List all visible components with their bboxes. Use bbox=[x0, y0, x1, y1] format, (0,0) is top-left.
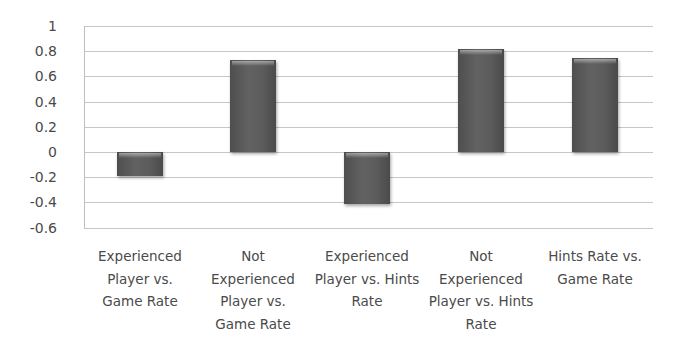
y-tick-label: -0.2 bbox=[0, 169, 57, 185]
x-category-label-line: Player vs. Hints bbox=[425, 290, 537, 313]
x-category-label-line: Game Rate bbox=[197, 313, 309, 336]
x-category-label: NotExperiencedPlayer vs.Game Rate bbox=[197, 245, 309, 335]
gridline bbox=[84, 102, 653, 103]
x-category-label-line: Rate bbox=[425, 313, 537, 336]
bar bbox=[230, 60, 276, 152]
gridline bbox=[84, 51, 653, 52]
x-category-label-line: Player vs. bbox=[84, 268, 196, 291]
x-category-label: Hints Rate vs.Game Rate bbox=[539, 245, 651, 290]
y-tick-label: 0.2 bbox=[0, 119, 57, 135]
gridline bbox=[84, 76, 653, 77]
x-category-label: NotExperiencedPlayer vs. HintsRate bbox=[425, 245, 537, 335]
bar bbox=[458, 49, 504, 152]
x-category-label: ExperiencedPlayer vs.Game Rate bbox=[84, 245, 196, 313]
x-category-label-line: Experienced bbox=[311, 245, 423, 268]
y-axis-line bbox=[84, 26, 85, 228]
x-category-label-line: Not bbox=[425, 245, 537, 268]
gridline bbox=[84, 127, 653, 128]
bar bbox=[117, 152, 163, 176]
y-tick-label: 0.4 bbox=[0, 94, 57, 110]
x-category-label-line: Experienced bbox=[425, 268, 537, 291]
y-tick-label: -0.4 bbox=[0, 194, 57, 210]
bar bbox=[344, 152, 390, 204]
gridline bbox=[84, 26, 653, 27]
x-category-label-line: Not bbox=[197, 245, 309, 268]
x-category-label-line: Player vs. bbox=[197, 290, 309, 313]
y-tick-label: 0.6 bbox=[0, 68, 57, 84]
x-category-label-line: Rate bbox=[311, 290, 423, 313]
bar bbox=[572, 58, 618, 153]
x-category-label-line: Game Rate bbox=[539, 268, 651, 291]
x-category-label-line: Experienced bbox=[84, 245, 196, 268]
correlation-bar-chart: 10.80.60.40.20-0.2-0.4-0.6 ExperiencedPl… bbox=[0, 0, 687, 360]
x-category-label: ExperiencedPlayer vs. HintsRate bbox=[311, 245, 423, 313]
gridline bbox=[84, 228, 653, 229]
y-tick-label: -0.6 bbox=[0, 220, 57, 236]
y-tick-label: 1 bbox=[0, 18, 57, 34]
y-tick-label: 0 bbox=[0, 144, 57, 160]
x-category-label-line: Player vs. Hints bbox=[311, 268, 423, 291]
x-category-label-line: Hints Rate vs. bbox=[539, 245, 651, 268]
y-tick-label: 0.8 bbox=[0, 43, 57, 59]
x-category-label-line: Experienced bbox=[197, 268, 309, 291]
x-category-label-line: Game Rate bbox=[84, 290, 196, 313]
